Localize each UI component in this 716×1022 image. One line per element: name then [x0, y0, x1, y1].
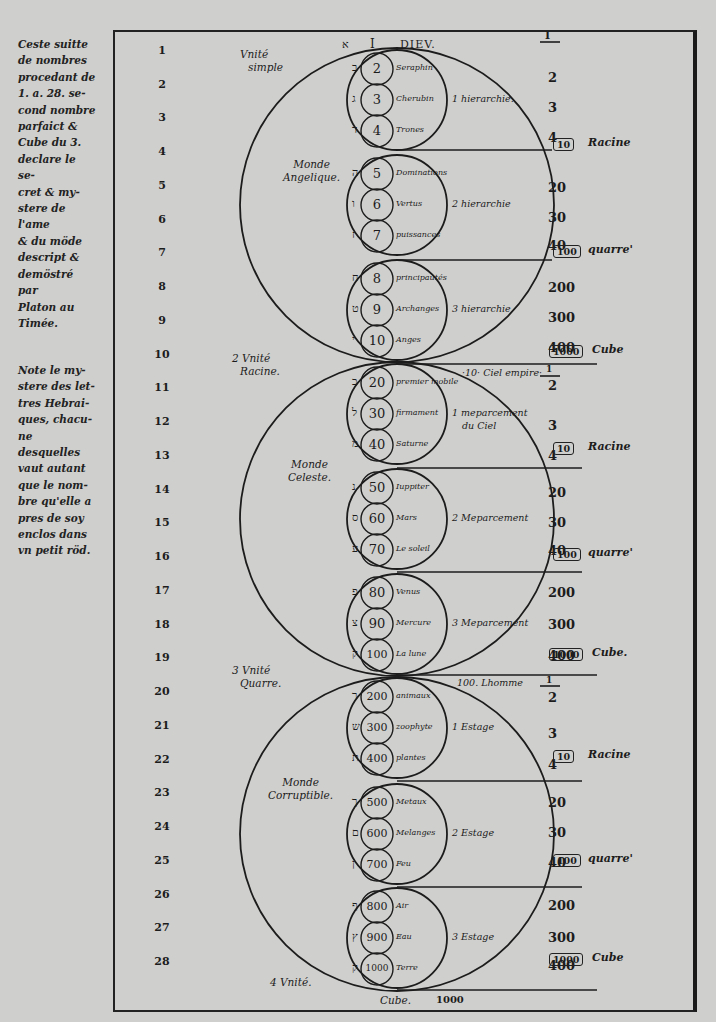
left-number: 10	[150, 348, 174, 361]
apex-label: ·10· Ciel empire·	[462, 366, 542, 379]
boxed-sum: 100	[553, 854, 581, 867]
sum-label: Racine	[588, 748, 630, 761]
circle-value: 900	[360, 931, 394, 944]
item-name: Saturne	[396, 439, 428, 448]
right-value: 30	[548, 515, 566, 530]
left-number: 24	[150, 820, 174, 833]
hebrew-letter: ע	[352, 542, 358, 555]
hebrew-letter: ז	[352, 228, 355, 241]
hierarchy-label: 3 Meparcement	[452, 616, 528, 629]
item-name: zoophyte	[396, 722, 433, 731]
circle-value: 800	[360, 900, 394, 913]
sum-label: Cube	[592, 343, 623, 356]
right-value: 300	[548, 310, 575, 325]
right-value: 200	[548, 898, 575, 913]
boxed-sum: 10	[553, 442, 574, 455]
hebrew-letter: ש	[352, 720, 360, 733]
item-name: plantes	[396, 753, 426, 762]
left-number: 7	[150, 246, 174, 259]
sum-label: quarre'	[588, 243, 633, 256]
left-number: 18	[150, 618, 174, 631]
circle-value: 2	[360, 61, 394, 76]
unity-label: 4 Vnité.	[270, 976, 312, 989]
right-value: 2	[548, 690, 557, 705]
left-number: 19	[150, 651, 174, 664]
hebrew-letter: פ	[352, 585, 358, 598]
left-number: 15	[150, 516, 174, 529]
world-name-line1: Monde	[288, 458, 331, 471]
unity-label-main: 4 Vnité.	[270, 976, 312, 989]
hebrew-letter: ב	[352, 61, 357, 74]
item-name: Cherubin	[396, 94, 434, 103]
hierarchy-label: 2 Meparcement	[452, 511, 528, 524]
item-name: puissances	[396, 230, 440, 239]
item-name: Anges	[396, 335, 421, 344]
unity-label-main: 2 Vnité	[232, 352, 280, 365]
boxed-sum: 100	[553, 548, 581, 561]
header-title-dieu: DIEV.	[400, 38, 436, 51]
hierarchy-label: 3 hierarchie	[452, 302, 511, 315]
hierarchy-label: 1 Estage	[452, 720, 494, 733]
hierarchy-label: 2 hierarchie	[452, 197, 511, 210]
world-name-line2: Celeste.	[288, 471, 331, 484]
right-value: 3	[548, 726, 557, 741]
hebrew-letter: ף	[352, 899, 358, 912]
hebrew-aleph: א	[342, 38, 349, 51]
item-name: Dominations	[396, 168, 447, 177]
left-number: 11	[150, 381, 174, 394]
circle-value: 6	[360, 197, 394, 212]
circle-value: 70	[360, 542, 394, 557]
left-number: 8	[150, 280, 174, 293]
right-value: 20	[548, 795, 566, 810]
item-name: animaux	[396, 691, 431, 700]
item-name: La lune	[396, 649, 426, 658]
hebrew-letter: צ	[352, 616, 358, 629]
circle-value: 7	[360, 228, 394, 243]
circle-value: 700	[360, 858, 394, 871]
hebrew-letter: ק	[352, 647, 358, 660]
left-number: 1	[150, 44, 174, 57]
world-name-line2: Angelique.	[283, 171, 340, 184]
circle-value: 8	[360, 271, 394, 286]
sum-label: Cube.	[592, 646, 627, 659]
item-name: Le soleil	[396, 544, 430, 553]
circle-value: 30	[360, 406, 394, 421]
boxed-sum: 1000	[549, 953, 583, 966]
hierarchy-label-line: 1 Estage	[452, 720, 494, 733]
left-number: 12	[150, 415, 174, 428]
left-number: 21	[150, 719, 174, 732]
left-number: 4	[150, 145, 174, 158]
left-number: 6	[150, 213, 174, 226]
circle-value: 80	[360, 585, 394, 600]
hierarchy-label-line: 2 Estage	[452, 826, 494, 839]
circle-value: 50	[360, 480, 394, 495]
hebrew-letter: ד	[352, 123, 357, 136]
header-fraction-top: I	[545, 29, 550, 42]
circle-value: 60	[360, 511, 394, 526]
left-number: 28	[150, 955, 174, 968]
circle-value: 9	[360, 302, 394, 317]
sum-label: quarre'	[588, 546, 633, 559]
circle-value: 3	[360, 92, 394, 107]
hebrew-letter: ק	[352, 961, 358, 974]
circle-value: 300	[360, 721, 394, 734]
boxed-sum: 1000	[549, 345, 583, 358]
item-name: premier mobile	[396, 377, 458, 386]
left-number: 23	[150, 786, 174, 799]
hierarchy-label-line: 3 Meparcement	[452, 616, 528, 629]
left-number: 3	[150, 111, 174, 124]
circle-value: 40	[360, 437, 394, 452]
circle-value: 20	[360, 375, 394, 390]
right-value: 2	[548, 70, 557, 85]
circle-value: 200	[360, 690, 394, 703]
right-value: 20	[548, 485, 566, 500]
right-fraction-top: 1	[546, 675, 552, 685]
circle-value: 1000	[360, 963, 394, 973]
unity-label: 3 VnitéQuarre.	[232, 664, 281, 690]
left-number: 2	[150, 78, 174, 91]
boxed-sum: 1000	[549, 648, 583, 661]
right-value: 30	[548, 825, 566, 840]
left-number: 25	[150, 854, 174, 867]
item-name: firmament	[396, 408, 438, 417]
right-value: 200	[548, 585, 575, 600]
